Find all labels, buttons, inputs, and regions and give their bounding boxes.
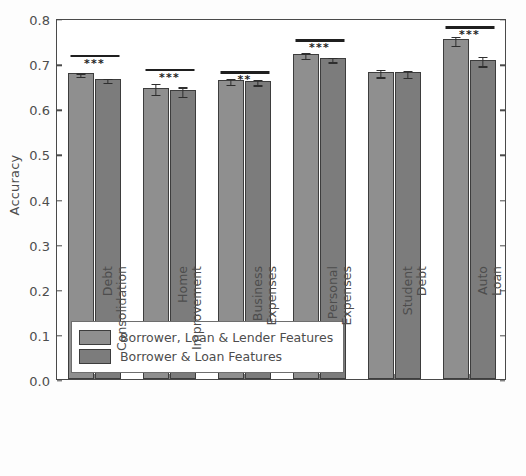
y-axis-tick-mark — [57, 245, 62, 246]
y-axis-tick-mark — [500, 245, 505, 246]
y-axis-tick-label: 0.0 — [29, 374, 57, 389]
y-axis-tick-mark — [57, 200, 62, 201]
x-axis-label-line: Improvement — [189, 266, 203, 386]
error-bar-cap — [404, 78, 413, 79]
x-axis-label-line: Auto — [476, 266, 490, 386]
y-axis-tick-mark — [500, 19, 505, 20]
error-bar-cap — [377, 77, 386, 78]
error-bar — [455, 37, 456, 46]
y-axis-tick-mark — [500, 64, 505, 65]
significance-label: *** — [159, 72, 180, 83]
x-axis-label: BusinessExpenses — [251, 266, 278, 386]
y-axis-tick-mark — [500, 200, 505, 201]
error-bar-cap — [404, 71, 413, 72]
bar — [443, 39, 469, 379]
y-axis-label: Accuracy — [7, 130, 27, 240]
x-axis-label-line: Student — [401, 266, 415, 386]
x-axis-label: AutoLoan — [476, 266, 503, 386]
error-bar-cap — [152, 84, 161, 85]
x-axis-label-line: Personal — [326, 266, 340, 386]
bar — [368, 72, 394, 379]
y-axis-tick-label: 0.6 — [29, 103, 57, 118]
x-axis-tick-mark — [319, 374, 320, 379]
y-axis-tick-label: 0.5 — [29, 148, 57, 163]
y-axis-tick-label: 0.7 — [29, 58, 57, 73]
error-bar-cap — [254, 85, 263, 86]
error-bar-cap — [152, 95, 161, 96]
x-axis-tick-mark — [469, 374, 470, 379]
x-axis-label-line: Debt — [101, 266, 115, 386]
x-axis-label-line: Debt — [414, 266, 428, 386]
error-bar-cap — [77, 73, 86, 74]
x-axis-tick-mark — [244, 374, 245, 379]
error-bar-cap — [479, 66, 488, 67]
x-axis-label-line: Consolidation — [114, 266, 128, 386]
x-axis-label: HomeImprovement — [176, 266, 203, 386]
legend-label-series-0: Borrower, Loan & Lender Features — [120, 330, 333, 345]
x-axis-label-line: Expenses — [264, 266, 278, 386]
y-axis-tick-mark — [57, 19, 62, 20]
y-axis-tick-label: 0.3 — [29, 238, 57, 253]
error-bar-cap — [179, 97, 188, 98]
x-axis-label-line: Expenses — [339, 266, 353, 386]
error-bar-cap — [377, 70, 386, 71]
x-axis-label-line: Loan — [489, 266, 503, 386]
significance-label: ** — [238, 74, 252, 85]
y-axis-tick-mark — [57, 155, 62, 156]
error-bar-cap — [329, 62, 338, 63]
y-axis-tick-mark — [57, 290, 62, 291]
error-bar-cap — [77, 77, 86, 78]
x-axis-label-line: Business — [251, 266, 265, 386]
y-axis-tick-label: 0.1 — [29, 328, 57, 343]
y-axis-tick-mark — [57, 335, 62, 336]
y-axis-tick-mark — [500, 110, 505, 111]
x-axis-label: StudentDebt — [401, 266, 428, 386]
error-bar-cap — [104, 83, 113, 84]
error-bar-cap — [479, 57, 488, 58]
error-bar-cap — [452, 46, 461, 47]
y-axis-tick-label: 0.4 — [29, 193, 57, 208]
x-axis-label: DebtConsolidation — [101, 266, 128, 386]
error-bar-cap — [302, 59, 311, 60]
y-axis-tick-label: 0.2 — [29, 283, 57, 298]
error-bar-cap — [254, 80, 263, 81]
y-axis-tick-mark — [57, 110, 62, 111]
x-axis-tick-mark — [394, 374, 395, 379]
y-axis-tick-label: 0.8 — [29, 13, 57, 28]
y-axis-tick-mark — [57, 64, 62, 65]
error-bar — [482, 57, 483, 67]
error-bar-cap — [227, 79, 236, 80]
error-bar-cap — [104, 79, 113, 80]
error-bar-cap — [179, 87, 188, 88]
x-axis-label-line: Home — [176, 266, 190, 386]
significance-label: *** — [84, 58, 105, 69]
error-bar-cap — [329, 58, 338, 59]
bar-chart-figure: Accuracy 0.00.10.20.30.40.50.60.70.8 ***… — [0, 0, 526, 476]
error-bar — [182, 87, 183, 97]
y-axis-tick-mark — [57, 380, 62, 381]
significance-label: *** — [459, 29, 480, 40]
x-axis-label: PersonalExpenses — [326, 266, 353, 386]
error-bar — [155, 84, 156, 95]
x-axis-tick-mark — [169, 374, 170, 379]
significance-label: *** — [309, 42, 330, 53]
x-axis-tick-mark — [94, 374, 95, 379]
error-bar-cap — [227, 85, 236, 86]
y-axis-tick-mark — [500, 155, 505, 156]
